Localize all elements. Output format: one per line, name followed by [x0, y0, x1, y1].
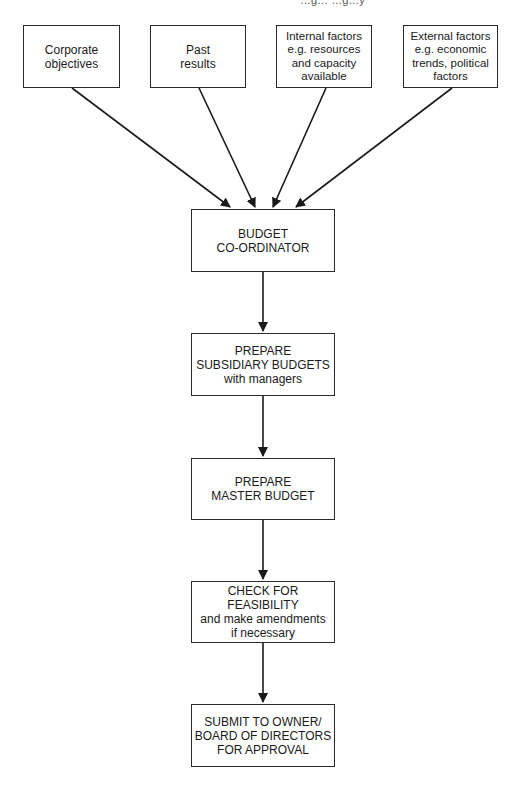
arrow-corporate-to-coordinator: [72, 88, 230, 207]
box-text-line: External factors: [411, 30, 491, 44]
box-text-line: FEASIBILITY: [227, 598, 298, 612]
box-text-line: CHECK FOR: [228, 584, 299, 598]
box-text-line: Corporate: [45, 43, 98, 57]
box-text-line: results: [180, 57, 215, 71]
box-text-line: BUDGET: [238, 227, 288, 241]
box-text-line: objectives: [45, 57, 98, 71]
arrow-internal-to-coordinator: [273, 88, 326, 207]
box-text-line: and capacity: [292, 57, 357, 71]
box-text-line: and make amendments: [200, 612, 325, 626]
box-text-line: trends, political: [412, 57, 489, 71]
input-corporate-objectives: Corporate objectives: [23, 25, 120, 88]
step-budget-coordinator: BUDGET CO-ORDINATOR: [191, 209, 335, 272]
input-external-factors: External factors e.g. economic trends, p…: [403, 25, 498, 88]
box-text-line: with managers: [224, 372, 302, 386]
box-text-line: FOR APPROVAL: [217, 743, 309, 757]
step-prepare-subsidiary-budgets: PREPARE SUBSIDIARY BUDGETS with managers: [191, 333, 335, 396]
box-text-line: SUBSIDIARY BUDGETS: [196, 358, 330, 372]
box-text-line: e.g. resources: [288, 43, 361, 57]
box-text-line: if necessary: [231, 626, 295, 640]
box-text-line: Internal factors: [286, 30, 362, 44]
box-text-line: BOARD OF DIRECTORS: [195, 729, 331, 743]
step-prepare-master-budget: PREPARE MASTER BUDGET: [191, 458, 335, 520]
box-text-line: e.g. economic: [415, 43, 487, 57]
box-text-line: available: [301, 70, 346, 84]
box-text-line: MASTER BUDGET: [211, 489, 314, 503]
box-text-line: Past: [186, 43, 210, 57]
box-text-line: factors: [433, 70, 468, 84]
connector-arrows: [0, 0, 526, 794]
box-text-line: SUBMIT TO OWNER/: [204, 715, 321, 729]
box-text-line: PREPARE: [235, 344, 291, 358]
input-past-results: Past results: [150, 25, 246, 88]
box-text-line: PREPARE: [235, 475, 291, 489]
step-submit-for-approval: SUBMIT TO OWNER/ BOARD OF DIRECTORS FOR …: [191, 704, 335, 767]
step-check-feasibility: CHECK FOR FEASIBILITY and make amendment…: [191, 581, 335, 643]
input-internal-factors: Internal factors e.g. resources and capa…: [276, 25, 372, 88]
arrow-external-to-coordinator: [296, 88, 452, 207]
box-text-line: CO-ORDINATOR: [217, 241, 310, 255]
